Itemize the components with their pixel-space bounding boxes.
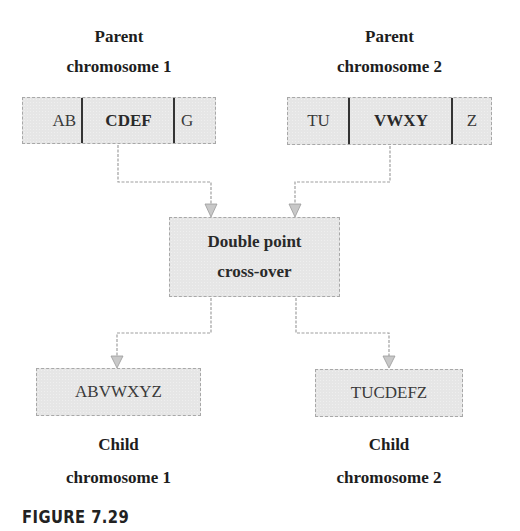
child-1-title-line2: chromosome 1 [36,461,201,494]
crossover-line1: Double point [208,227,302,257]
crossover-operation-box: Double point cross-over [169,217,340,297]
arrow-head-icon [205,204,217,217]
crossover-line2: cross-over [217,257,291,287]
child-2-title-line1: Child [315,428,463,461]
arrow-head-icon [383,356,395,368]
child-1-title-line1: Child [36,428,201,461]
arrow-head-icon [289,204,301,217]
child-1-sequence: ABVWXYZ [75,382,162,402]
child-1-chromosome-box: ABVWXYZ [36,368,201,416]
child-1-title: Child chromosome 1 [36,428,201,494]
child-2-title-line2: chromosome 2 [315,461,463,494]
figure-caption: FIGURE 7.29 [22,506,129,527]
child-2-chromosome-box: TUCDEFZ [315,369,463,417]
arrow-head-icon [111,356,123,368]
child-2-sequence: TUCDEFZ [351,383,428,403]
child-2-title: Child chromosome 2 [315,428,463,494]
